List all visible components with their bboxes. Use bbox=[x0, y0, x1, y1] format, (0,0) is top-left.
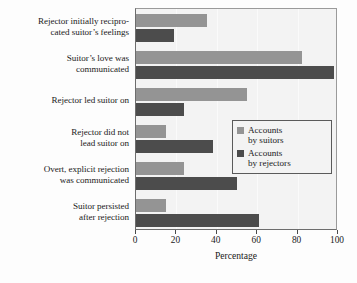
category-label-line: Overt, explicit rejection bbox=[0, 164, 129, 174]
legend-swatch-rejectors bbox=[237, 150, 244, 157]
category-label-line: lead suitor on bbox=[0, 138, 129, 148]
x-tick-label: 80 bbox=[292, 234, 301, 246]
legend-label-line: by suitors bbox=[248, 135, 284, 145]
x-tick-label: 0 bbox=[133, 234, 138, 246]
bars-layer bbox=[136, 9, 336, 229]
category-label-line: communicated bbox=[0, 64, 129, 74]
legend-swatch-suitors bbox=[237, 127, 244, 134]
category-label-line: Suitor’s love was bbox=[0, 53, 129, 63]
bar-suitors bbox=[136, 199, 166, 212]
plot-area bbox=[135, 8, 337, 230]
legend-item: Accountsby suitors bbox=[237, 125, 326, 146]
category-label-line: Suitor persisted bbox=[0, 201, 129, 211]
x-axis-tick-labels: 020406080100 bbox=[135, 234, 337, 248]
legend-item: Accountsby rejectors bbox=[237, 148, 326, 169]
category-label: Suitor persistedafter rejection bbox=[0, 201, 129, 222]
x-tick-label: 40 bbox=[211, 234, 220, 246]
legend-label: Accountsby rejectors bbox=[248, 148, 291, 169]
legend-label: Accountsby suitors bbox=[248, 125, 284, 146]
bar-rejectors bbox=[136, 66, 334, 79]
bar-rejectors bbox=[136, 214, 259, 227]
category-label-line: after rejection bbox=[0, 212, 129, 222]
bar-suitors bbox=[136, 88, 247, 101]
category-label-line: Rejector initially recipro- bbox=[0, 16, 129, 26]
bar-rejectors bbox=[136, 29, 174, 42]
bar-rejectors bbox=[136, 103, 184, 116]
bar-suitors bbox=[136, 14, 207, 27]
category-label-line: was communicated bbox=[0, 175, 129, 185]
category-label-line: Rejector led suitor on bbox=[0, 95, 129, 105]
bar-suitors bbox=[136, 51, 302, 64]
bar-chart-figure: Rejector initially recipro-cated suitor’… bbox=[0, 0, 357, 283]
x-axis-title: Percentage bbox=[135, 250, 337, 261]
legend: Accountsby suitorsAccountsby rejectors bbox=[232, 120, 332, 174]
legend-label-line: Accounts bbox=[248, 125, 284, 135]
bar-suitors bbox=[136, 125, 166, 138]
category-label: Suitor’s love wascommunicated bbox=[0, 53, 129, 74]
category-axis-labels: Rejector initially recipro-cated suitor’… bbox=[0, 8, 132, 230]
category-label: Overt, explicit rejectionwas communicate… bbox=[0, 164, 129, 185]
category-label: Rejector initially recipro-cated suitor’… bbox=[0, 16, 129, 37]
bar-rejectors bbox=[136, 177, 237, 190]
category-label: Rejector did notlead suitor on bbox=[0, 127, 129, 148]
category-label-line: Rejector did not bbox=[0, 127, 129, 137]
category-label-line: cated suitor’s feelings bbox=[0, 27, 129, 37]
x-tick-label: 60 bbox=[252, 234, 261, 246]
category-label: Rejector led suitor on bbox=[0, 95, 129, 105]
bar-rejectors bbox=[136, 140, 213, 153]
legend-label-line: Accounts bbox=[248, 148, 291, 158]
x-tick-label: 100 bbox=[330, 234, 344, 246]
legend-label-line: by rejectors bbox=[248, 158, 291, 168]
bar-suitors bbox=[136, 162, 184, 175]
x-tick-label: 20 bbox=[171, 234, 180, 246]
